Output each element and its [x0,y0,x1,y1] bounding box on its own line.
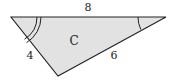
center-label: C [69,34,78,48]
side-label-right: 6 [111,49,118,62]
triangle-diagram: 8 4 6 C [0,0,176,83]
triangle-shape [11,17,166,76]
side-label-top: 8 [85,1,92,14]
side-label-left: 4 [27,49,34,62]
